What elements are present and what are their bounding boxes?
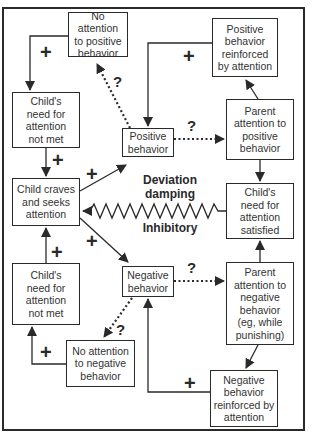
arrow-negative-reinforced-to-negative — [148, 299, 210, 392]
question-mark: ? — [187, 260, 196, 275]
plus-sign: + — [51, 242, 63, 262]
attention-feedback-diagram: No attention to positive behavior Positi… — [0, 0, 312, 437]
node-parent-attention-positive: Parent attention to positive behavior — [226, 99, 294, 160]
node-need-satisfied: Child's need for attention satisfied — [226, 183, 294, 239]
plus-sign: + — [40, 42, 52, 62]
plus-sign: + — [184, 373, 196, 393]
plus-sign: + — [86, 164, 98, 184]
node-negative-behavior: Negative behavior — [122, 266, 174, 297]
zigzag-inhibitory-connector — [83, 204, 226, 218]
plus-sign: + — [86, 231, 98, 251]
node-child-craves: Child craves and seeks attention — [12, 178, 80, 226]
arrow-parent-negative-to-reinforced — [246, 345, 258, 368]
node-positive-reinforced: Positive behavior reinforced by attentio… — [212, 18, 278, 77]
label-deviation-damping: Deviation damping — [130, 173, 210, 201]
node-need-not-met-bottom: Child's need for attention not met — [12, 263, 80, 325]
arrow-parent-positive-to-reinforced — [246, 80, 258, 99]
node-no-attention-negative: No attention to negative behavior — [66, 340, 135, 387]
question-mark: ? — [113, 74, 122, 89]
node-positive-behavior: Positive behavior — [122, 128, 174, 157]
node-parent-attention-negative: Parent attention to negative behavior (e… — [226, 262, 294, 345]
question-mark: ? — [116, 322, 125, 337]
node-negative-reinforced: Negative behavior reinforced by attentio… — [210, 370, 278, 427]
plus-sign: + — [40, 342, 52, 362]
label-inhibitory: Inhibitory — [130, 221, 210, 235]
node-need-not-met-top: Child's need for attention not met — [12, 92, 80, 148]
plus-sign: + — [183, 46, 195, 66]
arrow-positive-reinforced-to-positive — [148, 43, 212, 126]
question-mark: ? — [187, 118, 196, 133]
plus-sign: + — [52, 150, 64, 170]
node-no-attention-positive: No attention to positive behavior — [68, 12, 128, 57]
